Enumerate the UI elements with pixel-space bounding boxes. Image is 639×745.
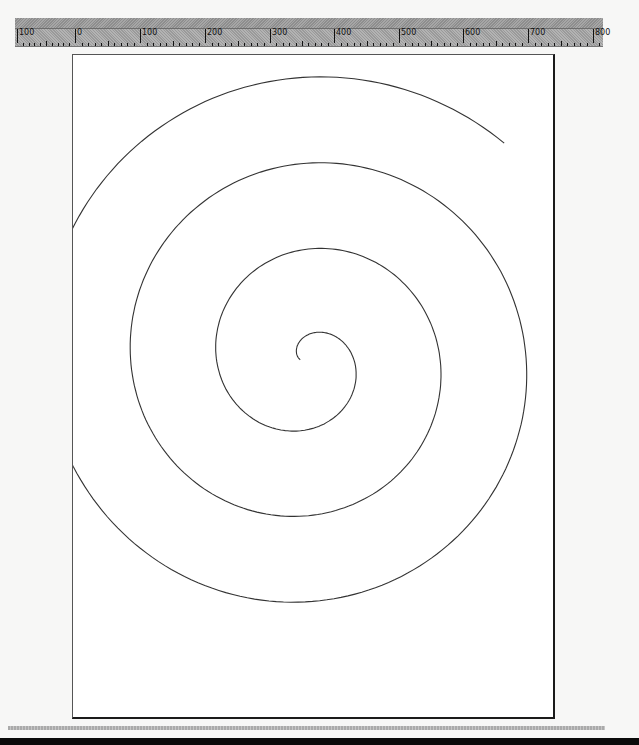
ruler-tick (251, 43, 252, 46)
ruler-tick (40, 43, 41, 46)
ruler-tick (121, 43, 122, 46)
ruler-tick (561, 41, 562, 46)
ruler-tick (308, 43, 309, 46)
ruler-tick (418, 43, 419, 46)
ruler-tick (541, 43, 542, 46)
ruler-tick (218, 43, 219, 46)
ruler-tick (489, 43, 490, 46)
ruler-label: 700 (528, 29, 545, 43)
status-bar (0, 738, 639, 745)
ruler-tick (23, 43, 24, 46)
ruler-tick (264, 43, 265, 46)
ruler-tick (425, 43, 426, 46)
ruler-tick (347, 43, 348, 46)
ruler-tick (29, 43, 30, 46)
ruler-tick (160, 43, 161, 46)
ruler-tick (412, 43, 413, 46)
ruler-tick (470, 43, 471, 46)
ruler-label: 500 (399, 29, 416, 43)
horizontal-scrollbar-track[interactable] (8, 726, 605, 730)
ruler-tick (63, 43, 64, 46)
ruler-tick (380, 43, 381, 46)
ruler-tick (52, 43, 53, 46)
ruler-tick (483, 43, 484, 46)
ruler-tick (244, 43, 245, 46)
ruler-tick (199, 43, 200, 46)
ruler-label: 400 (334, 29, 351, 43)
ruler-label: 300 (270, 29, 287, 43)
ruler-label: 600 (463, 29, 480, 43)
ruler-tick (354, 43, 355, 46)
ruler-tick (114, 43, 115, 46)
ruler-tick (283, 43, 284, 46)
ruler-tick (502, 43, 503, 46)
ruler-tick (515, 43, 516, 46)
spiral-path[interactable] (73, 55, 553, 717)
ruler-label: 800 (593, 29, 610, 43)
ruler-tick (289, 43, 290, 46)
ruler-tick (360, 43, 361, 46)
ruler-tick (257, 43, 258, 46)
ruler-label: 0 (75, 29, 82, 43)
ruler-tick (373, 43, 374, 46)
ruler-tick (386, 43, 387, 46)
ruler-tick (192, 43, 193, 46)
ruler-tick (437, 43, 438, 46)
ruler-tick (328, 43, 329, 46)
ruler-label: 200 (205, 29, 222, 43)
ruler-tick (179, 43, 180, 46)
ruler-label: 100 (17, 29, 34, 43)
ruler-tick (225, 43, 226, 46)
ruler-tick (496, 41, 497, 46)
ruler-tick (393, 43, 394, 46)
ruler-tick (69, 43, 70, 46)
ruler-tick (580, 43, 581, 46)
ruler-tick (554, 43, 555, 46)
ruler-tick (567, 43, 568, 46)
ruler-tick (95, 43, 96, 46)
ruler-tick (186, 43, 187, 46)
ruler-tick (101, 43, 102, 46)
ruler-tick (46, 41, 47, 46)
ruler-tick (405, 43, 406, 46)
spiral-shape[interactable] (73, 77, 527, 602)
horizontal-ruler[interactable]: 1000100200300400500600700800 (15, 18, 603, 47)
ruler-tick (173, 41, 174, 46)
ruler-tick (476, 43, 477, 46)
ruler-band (15, 18, 603, 29)
ruler-tick (147, 43, 148, 46)
ruler-tick (431, 41, 432, 46)
ruler-tick (444, 43, 445, 46)
ruler-tick (231, 43, 232, 46)
document-page[interactable] (72, 54, 555, 719)
ruler-tick (315, 43, 316, 46)
ruler-tick (108, 41, 109, 46)
ruler-tick (321, 43, 322, 46)
ruler-tick (509, 43, 510, 46)
ruler-tick (82, 43, 83, 46)
ruler-tick (296, 43, 297, 46)
ruler-tick (212, 43, 213, 46)
ruler-tick (535, 43, 536, 46)
ruler-tick (134, 43, 135, 46)
ruler-tick (34, 43, 35, 46)
ruler-tick (276, 43, 277, 46)
ruler-tick (88, 43, 89, 46)
ruler-tick (599, 43, 600, 46)
ruler-tick (574, 43, 575, 46)
ruler-tick (457, 43, 458, 46)
ruler-tick (166, 43, 167, 46)
ruler-tick (450, 43, 451, 46)
ruler-tick (238, 41, 239, 46)
ruler-label: 100 (140, 29, 157, 43)
ruler-tick (58, 43, 59, 46)
ruler-tick (587, 43, 588, 46)
ruler-tick (341, 43, 342, 46)
ruler-tick (127, 43, 128, 46)
ruler-tick (548, 43, 549, 46)
ruler-tick (302, 41, 303, 46)
ruler-tick (153, 43, 154, 46)
ruler-tick (522, 43, 523, 46)
ruler-tick (367, 41, 368, 46)
